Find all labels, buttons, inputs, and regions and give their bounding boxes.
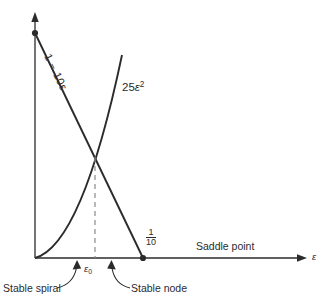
curve-parabola-25eps2 [35, 55, 122, 258]
crossing-label-eps0: ε0 [84, 264, 92, 276]
curve-parabola-label-coef: 25 [122, 81, 135, 93]
arrowhead-stable-spiral [73, 260, 82, 269]
x-axis-label: ε [312, 252, 316, 262]
curve-parabola-label-exp: 2 [140, 80, 145, 89]
arrow-stable-node [112, 268, 130, 288]
marker-x-intercept [140, 255, 146, 261]
y-axis-arrowhead [31, 12, 38, 22]
x-axis-arrowhead [297, 254, 307, 261]
x-intercept-denominator: 10 [146, 238, 156, 247]
arrowhead-stable-node [107, 260, 116, 270]
curve-parabola-label: 25ε2 [122, 81, 144, 93]
marker-line-top [32, 30, 38, 36]
region-label-stable-node: Stable node [131, 283, 187, 294]
region-label-saddle-point: Saddle point [196, 241, 254, 252]
crossing-label-subscript: 0 [88, 268, 92, 275]
x-intercept-fraction-label: 1 10 [146, 228, 156, 247]
region-label-stable-spiral: Stable spiral [3, 283, 61, 294]
phase-diagram-figure [0, 0, 327, 302]
